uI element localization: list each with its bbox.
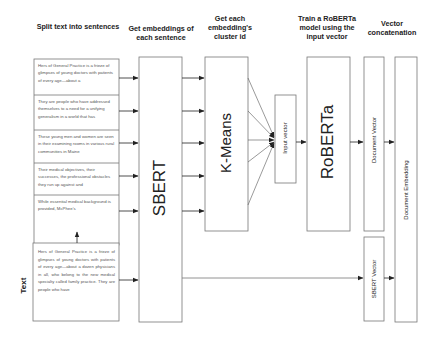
sentence-item: These young men and women are seen in th… (35, 131, 119, 162)
document-vector-label: Document Vector (370, 100, 378, 180)
arrows-kmeans-to-input-vector (248, 78, 274, 205)
sentence-item: They are people who have addressed thems… (35, 96, 119, 129)
header-vector-concatenation: Vector concatenation (362, 19, 422, 37)
roberta-label: RoBERTa (318, 97, 338, 187)
input-text-content: Hers of General Practice is a frieze of … (34, 244, 118, 316)
document-embedding-label: Document Embedding (402, 150, 410, 230)
header-split-sentences: Split text into sentences (36, 22, 120, 31)
sbert-label: SBERT (150, 148, 170, 228)
kmeans-label: K-Means (217, 98, 235, 188)
sentence-item: While essential medical background is pr… (35, 196, 119, 222)
header-cluster-id: Get each embedding's cluster id (200, 14, 260, 41)
arrows-sbert-to-kmeans (182, 78, 204, 211)
arrows-sentences-to-sbert (119, 78, 138, 211)
header-train-roberta: Train a RoBERTa model using the input ve… (292, 14, 362, 41)
header-get-embeddings: Get embeddings of each sentence (126, 24, 196, 42)
input-vector-label: Input vector (281, 108, 289, 168)
sbert-vector-label: SBERT Vector (370, 249, 378, 309)
sentence-item: Their medical objectives, their successe… (35, 164, 119, 194)
text-label: Text (19, 271, 28, 301)
sentence-item: Hers of General Practice is a frieze of … (35, 60, 119, 94)
